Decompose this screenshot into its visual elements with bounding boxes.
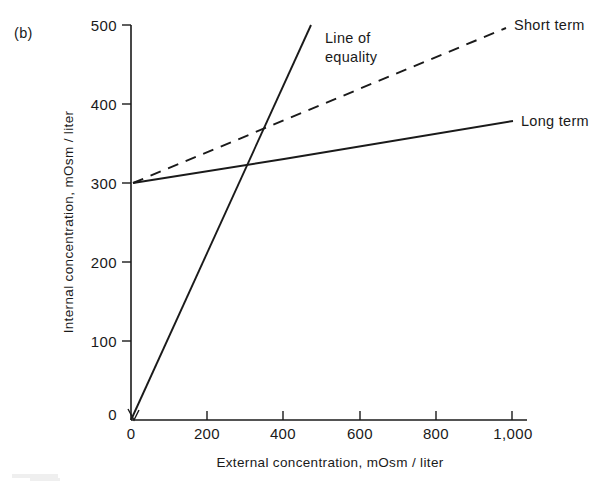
series-short-term	[133, 28, 506, 183]
x-tick-label-1000: 1,000	[493, 425, 533, 442]
label-line-of-equality-line2: equality	[325, 49, 378, 65]
label-short-term: Short term	[514, 17, 585, 33]
x-tick-label-400: 400	[270, 425, 296, 442]
y-tick-label-200: 200	[91, 254, 117, 271]
scan-artifact	[12, 474, 58, 478]
y-tick-label-400: 400	[91, 96, 117, 113]
series-long-term	[133, 121, 513, 183]
x-tick-label-600: 600	[347, 425, 373, 442]
y-tick-label-300: 300	[91, 175, 117, 192]
y-tick-label-100: 100	[91, 333, 117, 350]
x-axis-title: External concentration, mOsm / liter	[216, 455, 443, 470]
figure-panel-b: (b) 500 400 300 200 100 0 0 200 400 600 …	[0, 0, 615, 488]
panel-label: (b)	[14, 25, 33, 41]
label-line-of-equality-line1: Line of	[325, 30, 371, 46]
y-tick-label-500: 500	[91, 17, 117, 34]
label-long-term: Long term	[521, 113, 589, 129]
x-tick-label-0: 0	[127, 425, 136, 442]
x-tick-label-800: 800	[423, 425, 449, 442]
x-tick-label-200: 200	[194, 425, 220, 442]
y-tick-label-0: 0	[108, 406, 117, 423]
scan-artifact	[30, 478, 60, 481]
series-line-of-equality	[131, 25, 311, 420]
y-axis-title: Internal concentration, mOsm / liter	[61, 111, 76, 334]
concentration-chart: (b) 500 400 300 200 100 0 0 200 400 600 …	[0, 0, 615, 488]
